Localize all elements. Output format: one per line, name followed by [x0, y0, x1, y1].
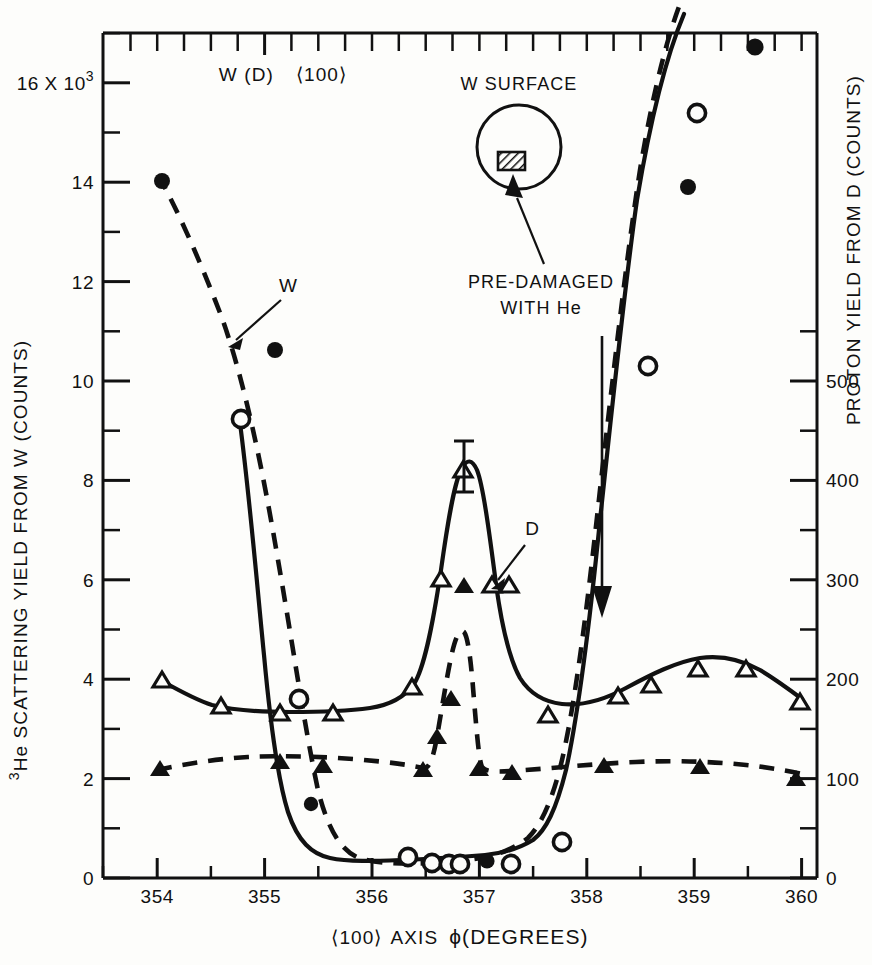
x-tick-label: 360 — [785, 886, 818, 907]
y-left-top-exponent: 3 — [86, 68, 94, 84]
y-right-axis-title: PROTON YIELD FROM D (COUNTS) — [843, 75, 864, 425]
data-point-open-circle — [290, 690, 307, 707]
y-tick-label: 100 — [826, 769, 859, 790]
x-tick-label: 357 — [463, 886, 496, 907]
y-tick-label: 14 — [72, 172, 94, 193]
y-tick-label: 6 — [83, 570, 94, 591]
x-tick-label: 358 — [570, 886, 603, 907]
x-axis-title-axis: AXIS — [391, 927, 439, 948]
channeling-yield-chart: 354 355 356 357 358 359 360 0 2 4 6 8 10… — [0, 0, 872, 965]
y-left-axis-title-sup: 3 — [6, 771, 22, 780]
damaged-spot-icon — [498, 152, 525, 170]
x-tick-label: 354 — [141, 886, 174, 907]
inset-title: W SURFACE — [461, 74, 578, 94]
y-tick-label: 2 — [83, 769, 94, 790]
y-tick-label: 0 — [826, 868, 837, 889]
data-point-filled-circle — [479, 853, 494, 868]
predamaged-caption-line2: WITH He — [500, 298, 582, 318]
data-point-open-circle — [451, 855, 468, 872]
curve-label-d: D — [525, 518, 539, 539]
data-point-open-circle — [639, 357, 656, 374]
predamaged-caption-line1: PRE-DAMAGED — [468, 272, 614, 292]
y-tick-label: 200 — [826, 669, 859, 690]
y-left-top-base: 16 X 10 — [17, 73, 86, 94]
y-tick-label: 8 — [83, 470, 94, 491]
y-tick-label: 300 — [826, 570, 859, 591]
y-tick-label: 12 — [72, 272, 94, 293]
data-point-filled-circle — [680, 179, 696, 195]
y-tick-label: 10 — [72, 371, 94, 392]
y-left-axis-title-rest: He SCATTERING YIELD FROM W (COUNTS) — [10, 340, 31, 772]
y-tick-label: 4 — [83, 669, 94, 690]
y-left-axis-title: 3He SCATTERING YIELD FROM W (COUNTS) — [6, 340, 31, 780]
x-tick-label: 356 — [355, 886, 388, 907]
y-tick-label: 0 — [83, 868, 94, 889]
data-point-open-circle — [502, 855, 519, 872]
data-point-filled-circle — [746, 38, 763, 55]
x-axis-title-bracket: ⟨100⟩ — [331, 927, 382, 948]
data-point-filled-circle — [154, 173, 170, 189]
x-axis-title-phi: ϕ(DEGREES) — [449, 925, 588, 948]
data-point-open-circle — [688, 104, 705, 121]
x-axis-title: ⟨100⟩AXISϕ(DEGREES) — [331, 925, 588, 948]
chart-title-orientation: ⟨100⟩ — [296, 64, 347, 85]
curve-label-w: W — [279, 275, 297, 296]
data-point-open-circle — [399, 848, 416, 865]
chart-title-main: W (D) — [219, 64, 274, 85]
figure-container: 354 355 356 357 358 359 360 0 2 4 6 8 10… — [0, 0, 872, 965]
chart-background — [0, 0, 872, 965]
data-point-filled-circle — [304, 797, 318, 811]
x-tick-label: 355 — [248, 886, 281, 907]
data-point-open-circle — [232, 410, 249, 427]
y-tick-label: 400 — [826, 470, 859, 491]
data-point-open-circle — [423, 854, 440, 871]
data-point-open-circle — [553, 833, 570, 850]
x-tick-label: 359 — [678, 886, 711, 907]
data-point-filled-circle — [267, 342, 283, 358]
